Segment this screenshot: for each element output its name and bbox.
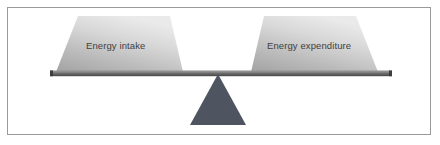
- fulcrum-triangle: [190, 74, 246, 125]
- energy-balance-figure: Energy intake Energy expenditure: [0, 0, 440, 145]
- block-label-energy-intake: Energy intake: [86, 41, 145, 51]
- block-label-energy-expenditure: Energy expenditure: [267, 41, 351, 51]
- beam-left-cap: [50, 71, 53, 77]
- seesaw-diagram: [0, 0, 440, 145]
- balance-beam: [50, 72, 392, 76]
- diagram-stage: [0, 0, 440, 145]
- beam-right-cap: [389, 71, 392, 77]
